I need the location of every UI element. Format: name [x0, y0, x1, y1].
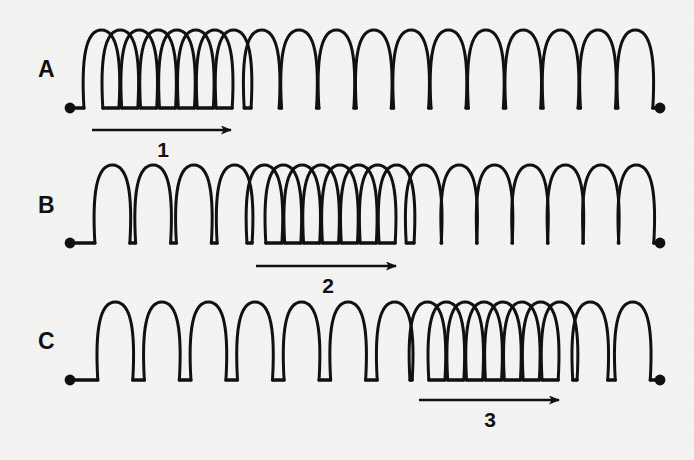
spring-coil-relaxed — [542, 30, 579, 108]
spring-coil-relaxed — [476, 165, 513, 243]
spring-b — [65, 165, 666, 248]
spring-coil-relaxed — [430, 30, 467, 108]
spring-coil-relaxed — [135, 165, 172, 243]
spring-coil-relaxed — [243, 30, 280, 108]
spring-coil-relaxed — [97, 302, 134, 380]
spring-end-dot — [655, 103, 666, 114]
spring-start-dot — [65, 103, 76, 114]
spring-coil-relaxed — [190, 302, 227, 380]
spring-c — [65, 302, 666, 385]
spring-coil-relaxed — [318, 30, 355, 108]
spring-label-c: C — [38, 330, 55, 353]
spring-coil-relaxed — [614, 302, 651, 380]
spring-coil-relaxed — [618, 165, 655, 243]
arrow-label-1: 1 — [143, 139, 183, 160]
spring-start-dot — [65, 375, 76, 386]
spring-coil-relaxed — [176, 165, 213, 243]
spring-a — [65, 30, 666, 113]
spring-start-dot — [65, 238, 76, 249]
spring-coil-relaxed — [441, 165, 478, 243]
spring-coil-relaxed — [583, 165, 620, 243]
spring-end-dot — [655, 238, 666, 249]
spring-label-a: A — [38, 58, 55, 81]
spring-coil-relaxed — [617, 30, 654, 108]
spring-coil-relaxed — [376, 302, 413, 380]
spring-coil-relaxed — [512, 165, 549, 243]
springs-layer — [65, 30, 666, 385]
spring-coil-relaxed — [355, 30, 392, 108]
spring-diagram-canvas — [0, 0, 694, 460]
spring-coil-relaxed — [580, 30, 617, 108]
spring-coil-relaxed — [281, 30, 318, 108]
spring-coil-relaxed — [547, 165, 584, 243]
spring-wave-figure: A B C 1 2 3 — [0, 0, 694, 460]
spring-coil-relaxed — [505, 30, 542, 108]
spring-end-dot — [655, 375, 666, 386]
spring-coil-relaxed — [393, 30, 430, 108]
spring-coil-relaxed — [468, 30, 505, 108]
spring-coil-relaxed — [283, 302, 320, 380]
arrow-label-2: 2 — [308, 275, 348, 296]
spring-coil-relaxed — [405, 165, 442, 243]
spring-coil-relaxed — [144, 302, 181, 380]
spring-coil-relaxed — [330, 302, 367, 380]
spring-coil-relaxed — [94, 165, 131, 243]
spring-label-b: B — [38, 194, 55, 217]
arrow-label-3: 3 — [470, 409, 510, 430]
spring-coil-relaxed — [237, 302, 274, 380]
